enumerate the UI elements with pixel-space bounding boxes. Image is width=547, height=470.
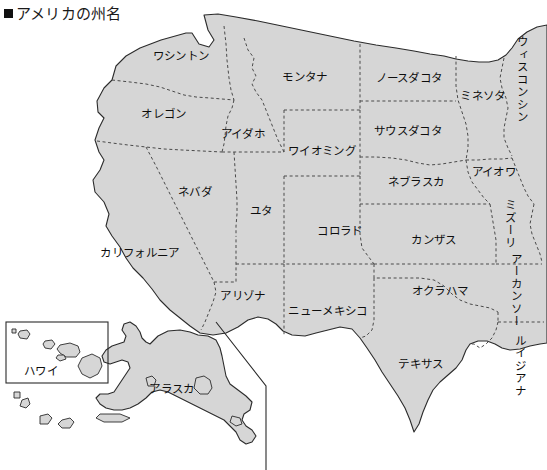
alaska-island-aleutian-2: [58, 418, 74, 428]
state-label-south-dakota: サウスダコタ: [374, 125, 442, 138]
state-label-utah: ユタ: [250, 205, 273, 218]
state-label-montana: モンタナ: [282, 71, 327, 84]
state-label-oregon: オレゴン: [141, 108, 186, 121]
state-label-nebraska: ネブラスカ: [388, 176, 445, 189]
state-label-oklahoma: オクラハマ: [412, 285, 469, 298]
usa-map-graphic: [0, 0, 547, 470]
hawaii-island-niihau: [12, 329, 16, 333]
state-label-hawaii: ハワイ: [24, 365, 58, 378]
alaska-island-aleutian-3: [40, 414, 52, 424]
hawaii-island-kauai: [18, 330, 30, 339]
state-label-alaska: アラスカ: [149, 383, 194, 396]
state-label-arkansas: アーカンソー: [509, 253, 522, 328]
state-label-new-mexico: ニューメキシコ: [288, 305, 367, 318]
alaska-island-aleutian-1: [96, 414, 130, 422]
state-label-california: カリフォルニア: [100, 247, 179, 260]
state-label-colorado: コロラド: [317, 225, 362, 238]
bullet-icon: [4, 9, 13, 18]
state-label-nevada: ネバダ: [178, 186, 212, 199]
state-label-wisconsin: ウィスコンシン: [515, 36, 528, 124]
state-label-arizona: アリゾナ: [220, 290, 265, 303]
page-title: アメリカの州名: [4, 4, 121, 23]
state-label-minnesota: ミネソタ: [460, 90, 505, 103]
hawaii-island-hawaii: [78, 354, 102, 378]
state-label-washington: ワシントン: [153, 50, 210, 63]
state-label-wyoming: ワイオミング: [288, 145, 356, 158]
state-label-louisiana: ルイジアナ: [513, 335, 526, 398]
state-label-idaho: アイダホ: [221, 128, 265, 141]
state-label-iowa: アイオワ: [472, 166, 516, 179]
state-label-texas: テキサス: [398, 358, 443, 371]
alaska-island-aleutian-4: [20, 398, 30, 408]
hawaii-island-molokai: [56, 355, 66, 361]
alaska-island-aleutian-5: [14, 392, 20, 398]
state-label-missouri: ミズーリ: [503, 199, 516, 249]
page-title-text: アメリカの州名: [16, 5, 121, 22]
state-label-kansas: カンザス: [411, 234, 456, 247]
map-page: アメリカの州名: [0, 0, 547, 470]
state-label-north-dakota: ノースダコタ: [376, 72, 443, 85]
hawaii-island-oahu: [43, 340, 55, 349]
